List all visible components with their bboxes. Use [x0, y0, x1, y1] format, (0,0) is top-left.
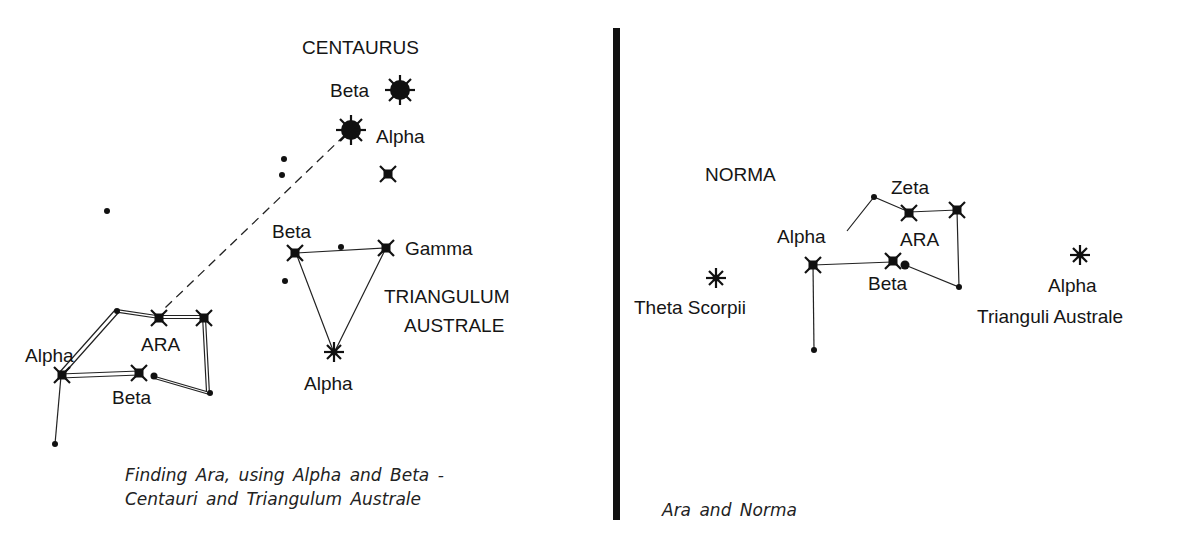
star-theta-scorpii-icon [706, 268, 726, 288]
ara-star-icon [956, 284, 962, 290]
star-icon [380, 166, 396, 182]
label-beta-ara: Beta [868, 273, 908, 294]
star-alpha-tra-icon [1070, 245, 1090, 265]
star-beta-ara-icon [131, 365, 147, 381]
ara-star-icon [114, 308, 120, 314]
ara-star-icon [871, 194, 877, 200]
star-alpha-tra-icon [324, 342, 344, 362]
label-norma: NORMA [705, 164, 776, 185]
label-trianguli-australe: Trianguli Australe [977, 306, 1123, 327]
label-beta-tra: Beta [272, 221, 312, 242]
pointer-dashed-line [165, 135, 345, 308]
faint-star-icon [281, 156, 287, 162]
faint-star-icon [338, 244, 344, 250]
label-alpha-tra: Alpha [304, 373, 353, 394]
left-caption: Finding Ara, using Alpha and Beta - Cent… [125, 463, 625, 511]
label-beta-centauri: Beta [330, 80, 370, 101]
label-zeta: Zeta [891, 177, 929, 198]
faint-star-icon [104, 208, 110, 214]
left-panel-chart: CENTAURUS Beta Alpha Beta Gamma TRIANGUL… [25, 37, 510, 447]
label-ara: ARA [141, 334, 180, 355]
tra-triangle [296, 248, 386, 353]
label-theta-scorpii: Theta Scorpii [634, 297, 746, 318]
label-alpha-centauri: Alpha [376, 126, 425, 147]
label-triangulum: TRIANGULUM [384, 286, 510, 307]
ara-star-icon [151, 373, 158, 380]
label-alpha-ara: Alpha [777, 226, 826, 247]
star-beta-centauri-icon [385, 75, 415, 105]
label-ara: ARA [900, 229, 939, 250]
right-panel-chart: NORMA Zeta Alpha ARA Beta Theta Scorpii … [634, 164, 1123, 353]
ara-star-icon [207, 390, 213, 396]
star-beta-ara-icon [885, 253, 901, 269]
ara-outline [55, 310, 210, 445]
right-caption: Ara and Norma [662, 498, 797, 522]
label-alpha-ara: Alpha [25, 345, 74, 366]
panel-divider [613, 28, 620, 520]
label-beta-ara: Beta [112, 387, 152, 408]
ara-star-icon [52, 441, 58, 447]
left-caption-line2: Centauri and Triangulum Australe [125, 487, 625, 511]
star-alpha-centauri-icon [336, 115, 366, 145]
left-caption-line1: Finding Ara, using Alpha and Beta - [125, 463, 625, 487]
label-alpha-tra: Alpha [1048, 275, 1097, 296]
faint-star-icon [279, 172, 285, 178]
ara-star-icon [811, 347, 817, 353]
ara-star-icon [901, 261, 910, 270]
label-centaurus: CENTAURUS [302, 37, 419, 58]
label-australe: AUSTRALE [404, 315, 504, 336]
faint-star-icon [282, 278, 288, 284]
label-gamma-tra: Gamma [405, 238, 473, 259]
star-zeta-ara-icon [901, 205, 917, 221]
